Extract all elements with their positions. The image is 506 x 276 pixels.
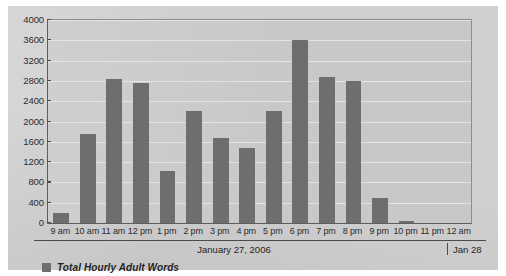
gridline [48,40,471,41]
bar [133,83,149,223]
date-secondary-label: Jan 28 [453,244,482,256]
y-axis: 400036003200280024002000160012008004000 [8,19,44,224]
bar [319,77,335,223]
bar [106,79,122,223]
y-tick-mark [47,141,51,142]
legend-series-label: Total Hourly Adult Words [57,262,179,273]
bar [346,81,362,223]
bar [80,134,96,223]
x-tick-label: 4 pm [233,226,260,237]
y-tick-label: 2400 [10,96,44,106]
x-tick-label: 8 pm [339,226,366,237]
y-tick-label: 4000 [10,15,44,25]
chart-panel: 400036003200280024002000160012008004000 … [8,6,498,270]
x-tick-label: 11 am [100,226,127,237]
y-tick-mark [47,181,51,182]
date-divider [447,243,448,255]
x-tick-label: 1 pm [153,226,180,237]
x-axis: 9 am10 am11 am12 pm1 pm2 pm3 pm4 pm5 pm6… [47,226,472,239]
y-tick-mark [47,60,51,61]
x-tick-label: 12 am [445,226,472,237]
x-tick-label: 10 am [74,226,101,237]
y-tick-label: 0 [10,218,44,228]
bar [292,40,308,223]
date-band: January 27, 2006 Jan 28 [34,240,486,260]
y-tick-mark [47,121,51,122]
plot-area [47,19,472,224]
y-tick-mark [47,39,51,40]
y-tick-mark [47,222,51,223]
y-tick-label: 1600 [10,137,44,147]
bar [399,221,415,223]
x-tick-label: 6 pm [286,226,313,237]
bar [213,138,229,223]
chart-legend: Total Hourly Adult Words [42,260,179,274]
x-tick-label: 11 pm [419,226,446,237]
y-tick-mark [47,202,51,203]
date-band-rule [34,240,486,241]
y-tick-label: 2800 [10,76,44,86]
bar [266,111,282,223]
y-tick-mark [47,19,51,20]
bar [53,213,69,223]
y-tick-mark [47,100,51,101]
y-tick-label: 3200 [10,56,44,66]
legend-color-swatch [42,263,51,272]
x-tick-label: 7 pm [313,226,340,237]
gridline [48,61,471,62]
x-tick-label: 10 pm [392,226,419,237]
y-tick-label: 1200 [10,157,44,167]
bar [160,171,176,223]
x-tick-label: 5 pm [260,226,287,237]
bar [239,148,255,223]
x-tick-label: 3 pm [206,226,233,237]
bar [186,111,202,223]
y-tick-label: 2000 [10,117,44,127]
chart-figure: 400036003200280024002000160012008004000 … [0,0,506,276]
gridline [48,20,471,21]
y-tick-label: 400 [10,198,44,208]
bar [372,198,388,223]
y-tick-label: 800 [10,177,44,187]
y-tick-mark [47,80,51,81]
x-tick-label: 12 pm [127,226,154,237]
y-tick-label: 3600 [10,35,44,45]
y-tick-mark [47,161,51,162]
x-tick-label: 9 pm [366,226,393,237]
x-tick-label: 9 am [47,226,74,237]
date-primary-label: January 27, 2006 [34,244,434,256]
x-tick-label: 2 pm [180,226,207,237]
